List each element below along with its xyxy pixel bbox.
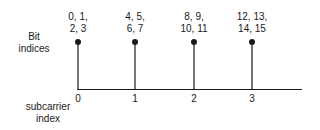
subcarrier-tick-label-0: 0 [68,93,88,105]
stem-dot-1 [132,39,138,45]
bit-indices-0: 0, 1,2, 3 [53,11,103,35]
bits-line-1: 12, 13, [227,11,277,23]
bits-line-2: 14, 15 [227,23,277,35]
bits-line-1: 8, 9, [169,11,219,23]
bit-indices-3: 12, 13,14, 15 [227,11,277,35]
bits-line-2: 6, 7 [110,23,160,35]
bits-line-2: 10, 11 [169,23,219,35]
bits-line-1: 4, 5, [110,11,160,23]
subcarrier-tick-label-1: 1 [125,93,145,105]
stem-dot-0 [75,39,81,45]
bits-line-2: 2, 3 [53,23,103,35]
subcarrier-tick-label-2: 2 [184,93,204,105]
stem-dot-3 [249,39,255,45]
stem-dot-2 [191,39,197,45]
subcarrier-tick-label-3: 3 [242,93,262,105]
bit-indices-2: 8, 9,10, 11 [169,11,219,35]
bits-line-1: 0, 1, [53,11,103,23]
bit-indices-1: 4, 5,6, 7 [110,11,160,35]
